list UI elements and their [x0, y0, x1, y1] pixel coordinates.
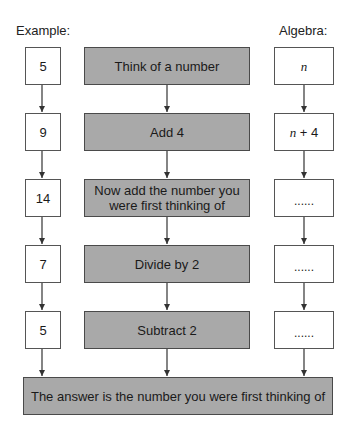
flow-arrows — [0, 0, 351, 431]
